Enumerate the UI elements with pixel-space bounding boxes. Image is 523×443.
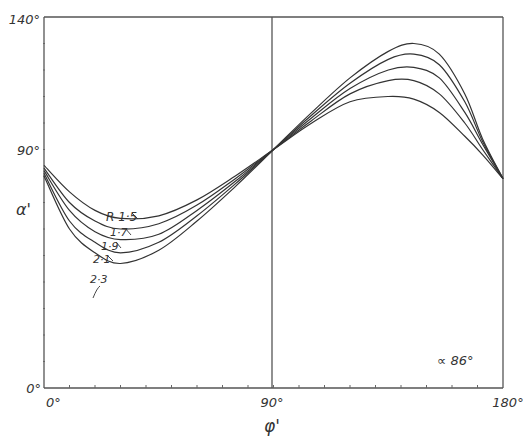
- series-label-1-9: 1·9: [101, 240, 119, 253]
- series-label-2-3: 2·3: [90, 273, 108, 286]
- chart: 140° 90° 0° α' 0° 90° 180° φ' ∝ 86° R 1·…: [0, 0, 523, 443]
- y-tick-90: 90°: [17, 143, 40, 158]
- series-label-1-7: 1·7: [110, 226, 128, 239]
- plot-frame: [44, 17, 503, 388]
- series-label-2-1: 2·1: [93, 253, 111, 266]
- annotation-alpha: ∝ 86°: [437, 353, 473, 368]
- x-tick-90: 90°: [260, 395, 283, 410]
- series-label-r15: R 1·5: [106, 210, 137, 224]
- x-axis-title: φ': [264, 416, 280, 436]
- x-tick-0: 0°: [46, 395, 61, 410]
- y-tick-0: 0°: [26, 381, 41, 396]
- y-axis-title: α': [16, 200, 31, 219]
- x-tick-180: 180°: [492, 395, 523, 410]
- leader-2-3: [93, 286, 100, 298]
- y-tick-140: 140°: [9, 12, 40, 27]
- curve-r-1-7: [44, 79, 503, 229]
- curve-r-1-5: [44, 96, 503, 218]
